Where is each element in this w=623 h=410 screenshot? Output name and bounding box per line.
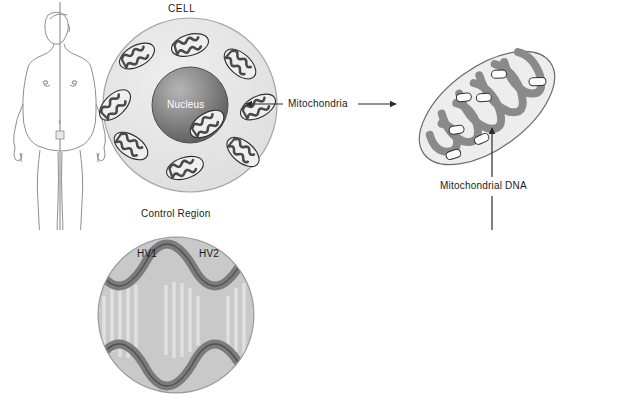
diagram-vector-layer xyxy=(0,0,623,410)
mitochondria-label: Mitochondria xyxy=(288,98,348,109)
diagram-canvas: CELL Nucleus Mitochondria Mitochondrial … xyxy=(0,0,623,410)
human-body-figure xyxy=(14,2,106,250)
nucleus-label: Nucleus xyxy=(167,99,205,110)
control-region-closeup xyxy=(0,230,623,400)
mtdna-nucleoid xyxy=(456,93,472,103)
mtdna-nucleoid-highlighted xyxy=(529,77,546,86)
mitochondrial-dna-label: Mitochondrial DNA xyxy=(440,180,527,191)
circle-clip-mask xyxy=(0,230,623,400)
hv2-label: HV2 xyxy=(199,248,219,259)
enlarged-mitochondrion xyxy=(400,29,574,187)
cell-label: CELL xyxy=(168,3,195,14)
control-region-label: Control Region xyxy=(141,208,211,219)
mtdna-nucleoid xyxy=(491,70,506,79)
mtdna-nucleoid xyxy=(476,93,492,102)
hv1-label: HV1 xyxy=(137,248,157,259)
outer-membrane xyxy=(400,29,574,187)
